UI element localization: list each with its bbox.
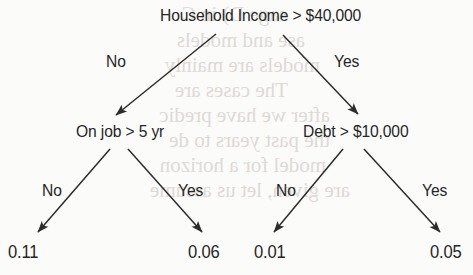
edge-label-left-yes: Yes bbox=[178, 181, 203, 200]
right-internal-node-label: Debt > $10,000 bbox=[303, 122, 408, 141]
edge-label-right-no: No bbox=[276, 181, 296, 200]
leaf-node-value: 0.05 bbox=[430, 242, 461, 262]
edge-label-root-yes: Yes bbox=[334, 52, 359, 71]
left-internal-node-label: On job > 5 yr bbox=[76, 122, 164, 141]
tree-text-layer: Household Income > $40,000 No Yes On job… bbox=[0, 0, 473, 275]
edge-label-root-no: No bbox=[106, 52, 126, 71]
root-node-label: Household Income > $40,000 bbox=[160, 6, 361, 25]
edge-label-right-yes: Yes bbox=[422, 181, 447, 200]
leaf-node-value: 0.11 bbox=[8, 242, 38, 262]
leaf-node-value: 0.06 bbox=[188, 242, 219, 262]
leaf-node-value: 0.01 bbox=[254, 242, 285, 262]
edge-label-left-no: No bbox=[42, 181, 62, 200]
decision-tree-diagram: sage D) in C ase and models models are m… bbox=[0, 0, 473, 275]
